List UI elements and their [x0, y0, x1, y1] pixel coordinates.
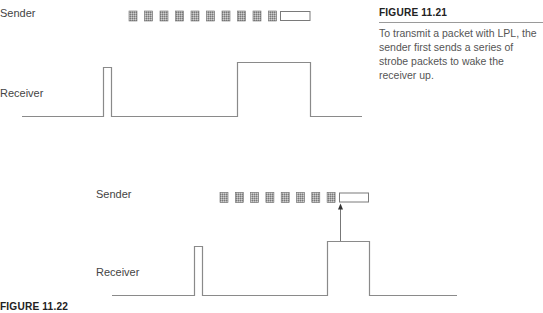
wakeup-arrow — [338, 204, 343, 242]
strobe-packet — [312, 193, 320, 203]
data-packet — [340, 193, 369, 202]
strobe-packet — [266, 193, 274, 203]
strobe-packet — [222, 11, 230, 21]
strobe-packet — [251, 193, 259, 203]
timing-diagrams — [0, 0, 543, 313]
strobe-packet — [281, 193, 289, 203]
strobe-packet — [191, 11, 199, 21]
sender-strobes-top — [129, 11, 310, 21]
strobe-packet — [297, 193, 305, 203]
strobe-packet — [238, 11, 246, 21]
strobe-packet — [207, 11, 215, 21]
receiver-signal-bottom — [112, 242, 457, 296]
strobe-packet — [220, 193, 228, 203]
strobe-packet — [145, 11, 153, 21]
strobe-packet — [327, 193, 335, 203]
sender-strobes-bottom — [220, 193, 369, 203]
strobe-packet — [176, 11, 184, 21]
receiver-signal-top — [22, 63, 362, 117]
strobe-packet — [269, 11, 277, 21]
strobe-packet — [160, 11, 168, 21]
strobe-packet — [235, 193, 243, 203]
strobe-packet — [129, 11, 137, 21]
data-packet — [281, 12, 311, 21]
strobe-packet — [253, 11, 261, 21]
arrow-head-icon — [338, 204, 343, 210]
